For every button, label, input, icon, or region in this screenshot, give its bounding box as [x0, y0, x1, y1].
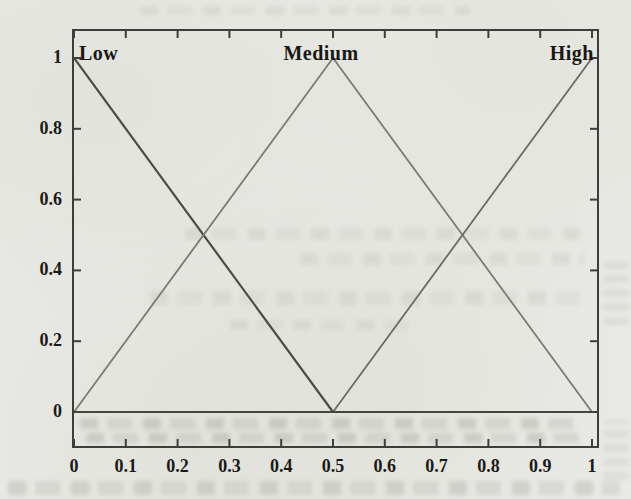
y-tick-label-0: 0 — [0, 401, 62, 422]
y-tick-label-1: 1 — [0, 47, 62, 68]
membership-function-plot: LowMediumHigh — [72, 29, 599, 448]
x-tick-label-0.5: 0.5 — [322, 456, 345, 477]
x-tick-label-0: 0 — [70, 456, 79, 477]
bleedthrough-text-smudge — [140, 6, 470, 15]
series-medium — [74, 58, 592, 412]
x-tick-label-0.9: 0.9 — [529, 456, 552, 477]
scanned-book-page: LowMediumHigh 00.10.20.30.40.50.60.70.80… — [0, 0, 631, 499]
curve-label-low: Low — [79, 42, 118, 65]
x-tick-label-0.3: 0.3 — [218, 456, 241, 477]
bleedthrough-text-smudge — [8, 481, 620, 495]
bleedthrough-margin-smudge — [603, 420, 629, 480]
x-tick-label-1: 1 — [588, 456, 597, 477]
y-tick-label-0.8: 0.8 — [0, 118, 62, 139]
x-tick-label-0.4: 0.4 — [270, 456, 293, 477]
y-tick-label-0.6: 0.6 — [0, 189, 62, 210]
bleedthrough-margin-smudge — [603, 255, 629, 325]
curve-label-high: High — [550, 42, 594, 65]
x-tick-label-0.1: 0.1 — [115, 456, 138, 477]
x-tick-label-0.7: 0.7 — [425, 456, 448, 477]
x-tick-label-0.6: 0.6 — [374, 456, 397, 477]
plot-canvas — [74, 31, 597, 446]
x-tick-label-0.8: 0.8 — [477, 456, 500, 477]
x-tick-label-0.2: 0.2 — [166, 456, 189, 477]
curve-label-medium: Medium — [283, 42, 358, 65]
y-tick-label-0.2: 0.2 — [0, 330, 62, 351]
y-tick-label-0.4: 0.4 — [0, 259, 62, 280]
